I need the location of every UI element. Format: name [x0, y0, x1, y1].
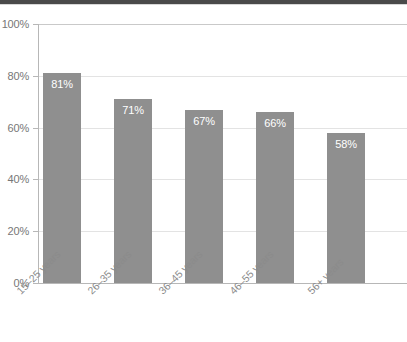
bar-value-label-36-45: 67%	[185, 115, 223, 127]
bar-value-label-56-plus: 58%	[327, 138, 365, 150]
chart-screenshot: 100% 80% 60% 40% 20% 0% 81% 71% 67% 66% …	[0, 0, 407, 342]
bar-chart: 100% 80% 60% 40% 20% 0% 81% 71% 67% 66% …	[0, 5, 407, 342]
y-tick-label-80: 80%	[0, 70, 29, 82]
y-tick-label-40: 40%	[0, 173, 29, 185]
bar-value-label-46-55: 66%	[256, 117, 294, 129]
y-tick-label-60: 60%	[0, 122, 29, 134]
y-tick-label-100: 100%	[0, 18, 29, 30]
bar-value-label-26-35: 71%	[114, 104, 152, 116]
plot-bars: 81% 71% 67% 66% 58%	[38, 24, 407, 283]
bar-value-label-15-25: 81%	[43, 78, 81, 90]
y-tick-label-20: 20%	[0, 225, 29, 237]
